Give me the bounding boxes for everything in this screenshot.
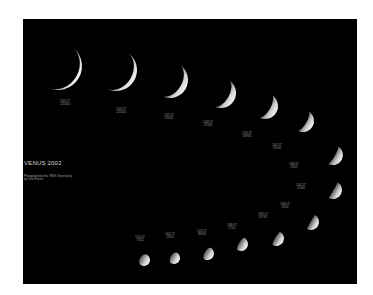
credit-line-2: by Chris Proctor	[24, 178, 72, 181]
venus-planet-icon	[321, 143, 345, 167]
phase-date: 20/7/02	[258, 216, 268, 219]
venus-phase-6	[290, 108, 316, 134]
venus-planet-icon	[93, 47, 139, 93]
venus-planet-icon	[204, 76, 238, 110]
venus-phase-14	[136, 252, 152, 268]
venus-phase-11	[232, 235, 250, 253]
phase-date: 1/8/02	[280, 206, 290, 209]
phase-date: 11/8/02	[296, 187, 306, 190]
venus-planet-icon	[250, 91, 280, 121]
phase-label: 1846 UT5/7/02	[227, 224, 237, 230]
phase-label: 1832 UT20/7/02	[258, 213, 268, 219]
phase-label: 1352 UT5/10/02	[164, 114, 174, 120]
phase-date: 1/6/02	[165, 236, 175, 239]
venus-planet-icon	[150, 60, 190, 100]
venus-planet-icon	[267, 229, 286, 248]
phase-label: 1515 UT7/5/02	[135, 236, 145, 242]
photo-credit: Photographed at the TBGS Observatory by …	[24, 175, 72, 182]
venus-planet-icon	[32, 40, 84, 92]
phase-date: 13/9/02	[272, 147, 282, 150]
phase-date: 5/7/02	[227, 227, 237, 230]
phase-label: 1519 UT18/9/02	[242, 132, 252, 138]
venus-phase-12	[199, 245, 216, 262]
phase-label: 1347 UT13/9/02	[272, 144, 282, 150]
venus-planet-icon	[199, 245, 216, 262]
venus-phase-4	[204, 76, 238, 110]
phase-label: 1403 UT1/8/02	[280, 203, 290, 209]
venus-phase-8	[322, 179, 344, 201]
photo-title: VENUS 2002	[24, 160, 62, 166]
phase-date: 2/9/02	[289, 166, 299, 169]
phase-label: 1403 UT22/9/02	[203, 121, 213, 127]
venus-phase-5	[250, 91, 280, 121]
venus-phase-7	[321, 143, 345, 167]
venus-planet-icon	[136, 252, 152, 268]
phase-date: 22/10/02	[60, 103, 70, 106]
phase-date: 12/10/02	[116, 111, 126, 114]
phase-date: 7/5/02	[135, 239, 145, 242]
venus-planet-icon	[301, 212, 321, 232]
venus-phase-1	[32, 40, 84, 92]
venus-planet-icon	[290, 108, 316, 134]
phase-label: 1341 UT22/10/02	[60, 100, 70, 106]
venus-phase-2	[93, 47, 139, 93]
phase-date: 18/6/02	[197, 233, 207, 236]
venus-planet-icon	[166, 250, 182, 266]
phase-date: 5/10/02	[164, 117, 174, 120]
venus-planet-icon	[322, 179, 344, 201]
phase-label: 1602 UT1/6/02	[165, 233, 175, 239]
phase-date: 22/9/02	[203, 124, 213, 127]
venus-phase-10	[267, 229, 286, 248]
venus-phase-9	[301, 212, 321, 232]
phase-label: 1342 UT11/8/02	[296, 184, 306, 190]
phase-label: 1342 UT12/10/02	[116, 108, 126, 114]
phase-date: 18/9/02	[242, 135, 252, 138]
venus-planet-icon	[232, 235, 250, 253]
phase-label: 1525 UT18/6/02	[197, 230, 207, 236]
venus-phase-3	[150, 60, 190, 100]
phase-label: 1346 UT2/9/02	[289, 163, 299, 169]
venus-phase-13	[166, 250, 182, 266]
